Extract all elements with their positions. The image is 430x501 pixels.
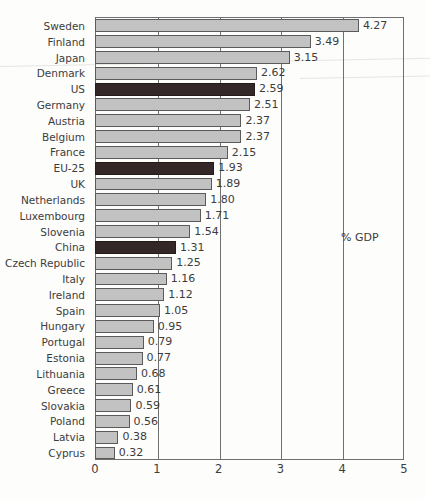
- category-label-slovenia: Slovenia: [0, 226, 85, 238]
- bar-netherlands: [95, 193, 206, 206]
- bar-ireland: [95, 288, 164, 301]
- category-label-italy: Italy: [0, 273, 85, 285]
- bar-slovenia: [95, 225, 190, 238]
- bar-luxembourg: [95, 209, 201, 222]
- bar-fill: [95, 98, 250, 111]
- bar-eu-25: [95, 162, 214, 175]
- bar-estonia: [95, 352, 143, 365]
- bar-belgium: [95, 130, 241, 143]
- bar-fill: [95, 320, 154, 333]
- bar-denmark: [95, 67, 257, 80]
- bar-fill: [95, 19, 359, 32]
- bar-italy: [95, 273, 167, 286]
- category-label-slovakia: Slovakia: [0, 400, 85, 412]
- category-label-germany: Germany: [0, 99, 85, 111]
- bar-poland: [95, 415, 130, 428]
- category-label-uk: UK: [0, 178, 85, 190]
- bar-fill: [95, 367, 137, 380]
- bar-fill: [95, 51, 290, 64]
- bar-fill: [95, 178, 212, 191]
- category-label-denmark: Denmark: [0, 67, 85, 79]
- category-label-poland: Poland: [0, 415, 85, 427]
- category-label-luxembourg: Luxembourg: [0, 210, 85, 222]
- category-label-portugal: Portugal: [0, 336, 85, 348]
- category-label-austria: Austria: [0, 115, 85, 127]
- bar-fill: [95, 114, 241, 127]
- bar-fill: [95, 304, 160, 317]
- category-label-greece: Greece: [0, 384, 85, 396]
- bar-japan: [95, 51, 290, 64]
- bar-slovakia: [95, 399, 131, 412]
- bar-fill: [95, 257, 172, 270]
- bar-fill: [95, 383, 133, 396]
- bar-finland: [95, 35, 311, 48]
- x-tick-label-3: 3: [265, 462, 295, 476]
- category-label-spain: Spain: [0, 305, 85, 317]
- bar-austria: [95, 114, 241, 127]
- bar-fill: [95, 83, 255, 96]
- category-label-lithuania: Lithuania: [0, 368, 85, 380]
- category-label-eu-25: EU-25: [0, 162, 85, 174]
- bar-latvia: [95, 431, 118, 444]
- bar-spain: [95, 304, 160, 317]
- bar-hungary: [95, 320, 154, 333]
- bar-france: [95, 146, 228, 159]
- bar-fill: [95, 130, 241, 143]
- bar-greece: [95, 383, 133, 396]
- bar-fill: [95, 146, 228, 159]
- bar-fill: [95, 209, 201, 222]
- bar-row: Cyprus0.32: [0, 444, 425, 462]
- gdp-annotation: % GDP: [341, 231, 379, 244]
- bar-fill: [95, 225, 190, 238]
- bar-fill: [95, 447, 115, 460]
- category-label-china: China: [0, 241, 85, 253]
- x-tick-label-4: 4: [327, 462, 357, 476]
- category-label-estonia: Estonia: [0, 352, 85, 364]
- category-label-hungary: Hungary: [0, 320, 85, 332]
- category-label-japan: Japan: [0, 52, 85, 64]
- category-label-finland: Finland: [0, 36, 85, 48]
- x-tick-label-5: 5: [389, 462, 419, 476]
- x-tick-label-0: 0: [80, 462, 110, 476]
- bar-fill: [95, 241, 176, 254]
- bar-germany: [95, 98, 250, 111]
- value-label: 0.32: [115, 444, 144, 462]
- bar-fill: [95, 399, 131, 412]
- category-label-czech-republic: Czech Republic: [0, 257, 85, 269]
- bar-fill: [95, 193, 206, 206]
- bar-fill: [95, 336, 144, 349]
- bar-cyprus: [95, 447, 115, 460]
- bar-us: [95, 83, 255, 96]
- bar-lithuania: [95, 367, 137, 380]
- category-label-us: US: [0, 83, 85, 95]
- bar-fill: [95, 273, 167, 286]
- category-label-france: France: [0, 146, 85, 158]
- category-label-cyprus: Cyprus: [0, 447, 85, 459]
- bar-sweden: [95, 19, 359, 32]
- x-axis-ticks: 012345: [0, 462, 425, 482]
- x-tick-label-2: 2: [204, 462, 234, 476]
- category-label-belgium: Belgium: [0, 131, 85, 143]
- bar-czech-republic: [95, 257, 172, 270]
- category-label-netherlands: Netherlands: [0, 194, 85, 206]
- bar-uk: [95, 178, 212, 191]
- bar-fill: [95, 352, 143, 365]
- bar-china: [95, 241, 176, 254]
- bar-fill: [95, 162, 214, 175]
- category-label-sweden: Sweden: [0, 20, 85, 32]
- bar-fill: [95, 35, 311, 48]
- bar-fill: [95, 415, 130, 428]
- bar-fill: [95, 288, 164, 301]
- bar-portugal: [95, 336, 144, 349]
- bar-fill: [95, 67, 257, 80]
- category-label-ireland: Ireland: [0, 289, 85, 301]
- category-label-latvia: Latvia: [0, 431, 85, 443]
- x-tick-label-1: 1: [142, 462, 172, 476]
- bar-fill: [95, 431, 118, 444]
